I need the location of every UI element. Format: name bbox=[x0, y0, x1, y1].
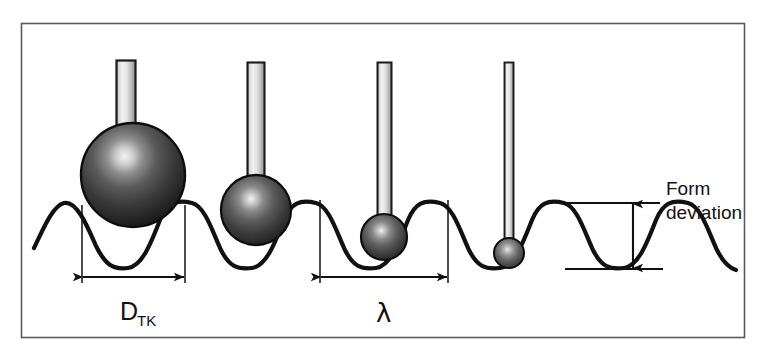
probe-ball-4 bbox=[494, 238, 524, 268]
probe-stem-4 bbox=[505, 63, 514, 245]
probe-ball-1 bbox=[81, 123, 185, 227]
dtk-label: D bbox=[120, 297, 138, 325]
form-deviation-label-line2: deviation bbox=[666, 202, 742, 223]
wavelength-label: λ bbox=[376, 298, 391, 328]
probe-ball-2 bbox=[221, 175, 291, 245]
dtk-subscript-label: TK bbox=[137, 312, 156, 329]
probe-stem-2 bbox=[248, 63, 265, 184]
probe-ball-3 bbox=[361, 214, 407, 260]
figure-canvas: D TK λ Form deviation bbox=[0, 0, 777, 362]
probe-stem-3 bbox=[378, 63, 392, 223]
form-deviation-label-line1: Form bbox=[666, 178, 710, 199]
probe-form-deviation-diagram: D TK λ Form deviation bbox=[0, 0, 777, 362]
